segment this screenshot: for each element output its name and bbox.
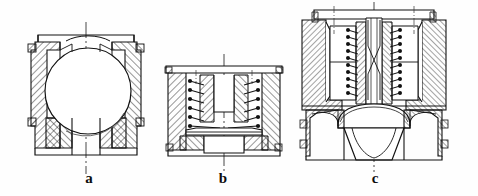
- flange-lug-right-b: [276, 67, 283, 73]
- body-lug-lower-left-a: [28, 118, 36, 126]
- guide-column-right-b: [234, 75, 248, 122]
- disc-plate-b: [186, 128, 262, 135]
- chamber-void-right-c: [392, 26, 418, 100]
- flange-lug-left-b: [165, 67, 172, 73]
- sleeve-right-c: [382, 22, 392, 104]
- top-flange-b: [166, 66, 282, 73]
- base-lug-left-c: [300, 140, 307, 148]
- seat-block-left-b: [180, 136, 204, 150]
- technical-drawing-figure: a: [0, 0, 478, 196]
- subfigure-caption-a: a: [85, 170, 93, 186]
- figure-svg: a: [0, 0, 478, 196]
- subfigure-caption-b: b: [219, 170, 227, 186]
- lower-bore-b: [204, 136, 244, 153]
- base-lug-right-b: [275, 144, 282, 151]
- body-lug-upper-left-a: [28, 44, 36, 52]
- chamber-void-left-c: [330, 26, 356, 100]
- sleeve-left-c: [356, 22, 366, 104]
- seat-block-right-b: [244, 136, 268, 150]
- base-lug-left-b: [166, 144, 173, 151]
- guide-column-left-b: [200, 75, 214, 122]
- stem-bore-b: [214, 75, 234, 112]
- mid-lug-left-c: [300, 120, 307, 128]
- base-lug-right-c: [441, 140, 448, 148]
- body-lug-upper-right-a: [136, 44, 144, 52]
- chamber-wall-left-c: [326, 22, 330, 102]
- body-lug-lower-right-a: [136, 118, 144, 126]
- mid-lug-right-c: [441, 120, 448, 128]
- subfigure-caption-c: c: [372, 170, 379, 186]
- chamber-wall-right-c: [418, 22, 422, 102]
